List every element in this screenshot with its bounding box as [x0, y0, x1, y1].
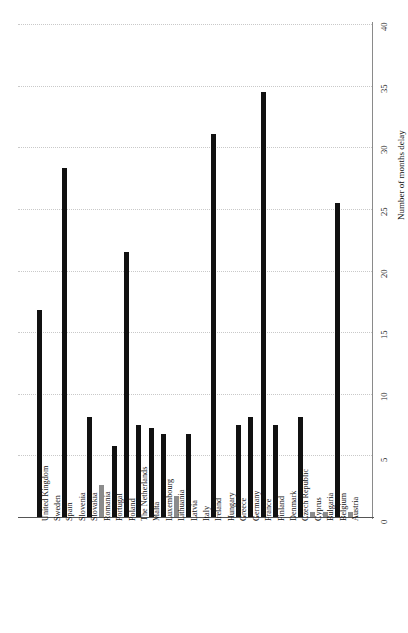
- bar-chart: 0510152025303540 Number of months delay …: [0, 0, 408, 633]
- value-tick-label: 30: [380, 146, 389, 155]
- bar: [62, 168, 67, 517]
- bar: [124, 252, 129, 517]
- plot-area: [30, 24, 372, 517]
- category-label: Slovakia: [91, 492, 99, 521]
- category-label: Lithuania: [178, 490, 186, 521]
- category-label: Romania: [104, 491, 112, 521]
- category-label: Germany: [253, 491, 261, 521]
- category-label: Italy: [203, 506, 211, 521]
- category-label: Cyprus: [315, 497, 323, 521]
- category-label: Czech Republic: [302, 469, 310, 521]
- category-label: Belgium: [340, 493, 348, 521]
- value-tick-label: 25: [380, 207, 389, 216]
- value-tick-label: 40: [380, 23, 389, 32]
- value-tick-label: 35: [380, 84, 389, 93]
- category-label: Ireland: [215, 498, 223, 521]
- category-label: Denmark: [290, 491, 298, 521]
- category-label: Spain: [66, 502, 74, 521]
- value-axis-title: Number of months delay: [396, 130, 406, 220]
- category-label: Greece: [240, 498, 248, 521]
- category-label: Bulgaria: [327, 493, 335, 521]
- category-label: Sweden: [54, 495, 62, 521]
- category-label: Hungary: [228, 492, 236, 521]
- value-tick-label: 20: [380, 269, 389, 278]
- category-label: Luxembourg: [166, 479, 174, 521]
- value-axis-line: [372, 22, 373, 519]
- category-label: Malta: [153, 502, 161, 521]
- category-label: Austria: [352, 497, 360, 521]
- bar: [335, 203, 340, 517]
- category-label: Slovenia: [79, 492, 87, 521]
- value-tick-label: 0: [380, 520, 389, 524]
- category-label: United Kingdom: [42, 466, 50, 521]
- category-label: The Netherlands: [141, 467, 149, 521]
- category-label: Poland: [129, 498, 137, 521]
- value-tick-label: 15: [380, 331, 389, 340]
- bar: [211, 134, 216, 517]
- value-tick-label: 10: [380, 392, 389, 401]
- category-label: Finland: [278, 496, 286, 521]
- category-label: Latvia: [191, 500, 199, 521]
- bar: [261, 92, 266, 517]
- category-label: France: [265, 499, 273, 521]
- category-label: Portugal: [116, 493, 124, 521]
- value-tick-label: 5: [380, 458, 389, 462]
